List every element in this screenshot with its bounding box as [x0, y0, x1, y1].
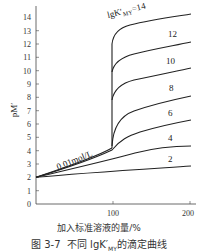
svg-text:1: 1: [27, 187, 31, 196]
curve-label-6: 6: [168, 108, 173, 118]
x-tick-label-200: 200: [182, 209, 194, 218]
curve-label-8: 8: [169, 83, 174, 93]
svg-text:14: 14: [23, 13, 31, 22]
curve-lgk-8: [112, 96, 191, 146]
svg-text:5: 5: [27, 133, 31, 142]
curve-lgk-10: [112, 68, 191, 100]
svg-text:13: 13: [23, 27, 31, 36]
svg-text:10: 10: [23, 67, 31, 76]
x-axis-label: 加入标准溶液的量/%: [0, 221, 198, 234]
titration-chart: 0 1 2 3 4 5 6 7 8 9 10 11 12 13 14 100 2…: [0, 0, 198, 252]
y-ticks: [36, 31, 39, 191]
curve-label-10: 10: [166, 56, 176, 66]
y-axis-label: pM′: [9, 103, 19, 118]
figure-caption: 图 3-7 不同 lgK′MY的滴定曲线: [0, 236, 198, 252]
x-tick-label-100: 100: [107, 209, 119, 218]
svg-text:2: 2: [27, 173, 31, 182]
svg-text:6: 6: [27, 120, 31, 129]
svg-text:12: 12: [23, 40, 31, 49]
svg-text:0: 0: [27, 200, 31, 209]
curve-label-14: lgK′MY=14: [106, 1, 147, 21]
svg-text:11: 11: [23, 53, 31, 62]
svg-text:8: 8: [27, 93, 31, 102]
svg-text:9: 9: [27, 80, 31, 89]
svg-text:4: 4: [27, 147, 31, 156]
curve-label-4: 4: [168, 133, 173, 143]
curve-label-2: 2: [168, 154, 173, 164]
svg-text:7: 7: [27, 107, 31, 116]
curve-lgk-12: [112, 42, 191, 72]
svg-text:3: 3: [27, 160, 31, 169]
curve-lgk-14: [112, 14, 191, 148]
y-tick-labels: 0 1 2 3 4 5 6 7 8 9 10 11 12 13 14: [23, 13, 31, 209]
curve-label-12: 12: [168, 29, 177, 39]
